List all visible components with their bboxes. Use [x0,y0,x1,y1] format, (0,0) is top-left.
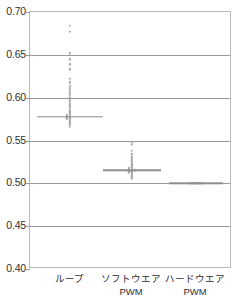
x-axis-label-3: ハードウエアPWM [165,273,225,296]
x-axis-label-line1: ソフトウエア [101,273,161,284]
y-axis-tick-label: 0.55 [0,134,28,146]
y-axis-tick-label: 0.45 [0,219,28,231]
x-axis-label-2: ソフトウエアPWM [101,273,161,296]
x-axis-label-line2: PWM [101,286,161,296]
gridline [30,98,230,99]
x-axis-label-1: ループ [55,273,84,286]
y-axis-tick-label: 0.50 [0,176,28,188]
data-point [69,126,71,128]
gridline [30,226,230,227]
data-point [131,144,133,146]
median-line [169,183,223,184]
data-point [69,31,71,33]
y-axis-tick-label: 0.65 [0,48,28,60]
chart-container: 0.700.650.600.550.500.450.40ループソフトウエアPWM… [0,0,238,296]
data-point [131,177,133,179]
chart-title [0,0,238,4]
data-point [69,78,71,80]
data-point [69,81,71,83]
data-point [69,58,71,60]
x-axis-label-line1: ループ [55,273,84,284]
y-axis-tick-label: 0.60 [0,91,28,103]
data-point [69,63,71,65]
data-point [69,68,71,70]
plot-area [29,11,231,268]
median-line [103,170,161,171]
gridline [30,55,230,56]
y-axis-tick-label: 0.40 [0,262,28,274]
x-axis-label-line2: PWM [165,286,225,296]
data-point [69,25,71,27]
median-line [37,116,103,117]
x-axis-label-line1: ハードウエア [165,273,225,284]
data-point [131,150,133,152]
y-axis-tick-label: 0.70 [0,5,28,17]
